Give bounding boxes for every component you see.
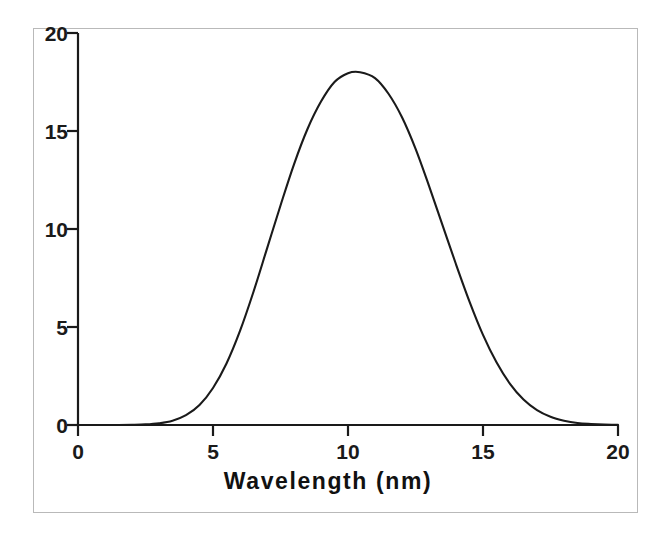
figure-container: 20151050 05101520 Wavelength (nm)	[0, 0, 656, 533]
x-axis-tick-label: 20	[606, 441, 629, 462]
y-axis-tick-label: 15	[36, 121, 68, 142]
x-axis-tick-label: 5	[207, 441, 219, 462]
x-axis-tick-label: 0	[72, 441, 84, 462]
axis-lines	[78, 33, 618, 425]
x-axis-tick-label: 10	[336, 441, 359, 462]
chart-canvas	[0, 0, 656, 533]
y-axis-tick-label: 10	[36, 219, 68, 240]
spectral-peak-curve	[78, 72, 618, 425]
x-axis-ticks	[78, 425, 618, 436]
y-axis-tick-label: 20	[36, 23, 68, 44]
y-axis-tick-label: 5	[36, 317, 68, 338]
x-axis-tick-label: 15	[471, 441, 494, 462]
y-axis-ticks	[67, 33, 78, 425]
x-axis-title: Wavelength (nm)	[0, 468, 656, 495]
y-axis-tick-label: 0	[36, 415, 68, 436]
